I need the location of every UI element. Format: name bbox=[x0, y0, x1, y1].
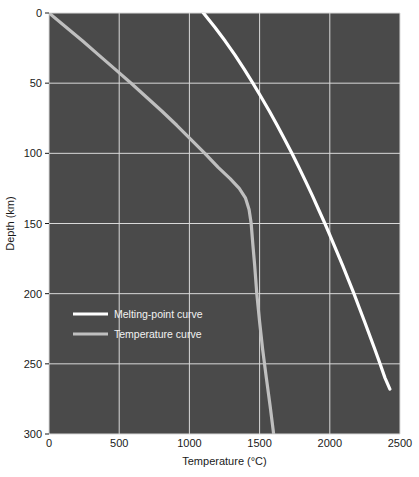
y-tick-label: 300 bbox=[24, 428, 42, 440]
x-tick-label: 2500 bbox=[388, 437, 412, 449]
y-tick-label: 0 bbox=[36, 7, 42, 19]
chart-figure: 05001000150020002500 050100150200250300 … bbox=[0, 0, 419, 477]
legend-label: Temperature curve bbox=[114, 328, 202, 340]
y-axis-title: Depth (km) bbox=[4, 196, 16, 250]
y-tick-label: 250 bbox=[24, 358, 42, 370]
y-tick-label: 150 bbox=[24, 218, 42, 230]
chart-canvas: 05001000150020002500 050100150200250300 … bbox=[0, 0, 419, 477]
x-tick-label: 1500 bbox=[247, 437, 271, 449]
legend-label: Melting-point curve bbox=[114, 308, 203, 320]
x-tick-label: 2000 bbox=[318, 437, 342, 449]
y-tick-label: 100 bbox=[24, 147, 42, 159]
y-tick-label: 50 bbox=[30, 77, 42, 89]
x-tick-label: 1000 bbox=[177, 437, 201, 449]
x-tick-label: 0 bbox=[46, 437, 52, 449]
x-axis-title: Temperature (°C) bbox=[182, 455, 266, 467]
x-tick-label: 500 bbox=[110, 437, 128, 449]
y-tick-label: 200 bbox=[24, 288, 42, 300]
